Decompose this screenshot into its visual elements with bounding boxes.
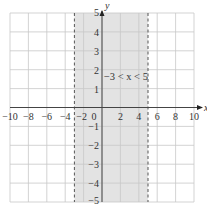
x-axis-arrow-icon [197,105,203,110]
y-tick-label: 3 [94,46,99,57]
x-tick-label: −4 [60,111,71,122]
inequality-annotation: −3 < x < 5 [104,71,148,82]
coordinate-plane: xy−10−8−6−4−20246810−5−4−3−2−112345−3 < … [0,0,207,207]
x-tick-label: 6 [155,111,160,122]
x-tick-label: −2 [76,111,87,122]
x-tick-label: 4 [136,111,141,122]
y-tick-label: −1 [88,121,99,132]
y-tick-label: −2 [88,140,99,151]
y-tick-label: 4 [94,27,99,38]
x-tick-label: 0 [92,111,97,122]
x-tick-label: 2 [118,111,123,122]
x-tick-label: −10 [2,111,18,122]
y-tick-label: 2 [94,65,99,76]
x-tick-label: −8 [23,111,34,122]
y-axis-label: y [104,0,110,11]
x-tick-label: 8 [173,111,178,122]
y-tick-label: −4 [88,178,99,189]
y-tick-label: −5 [88,195,99,206]
y-tick-label: −3 [88,159,99,170]
y-tick-label: 5 [94,7,99,18]
x-tick-label: −6 [41,111,52,122]
x-axis-label: x [203,102,207,113]
x-tick-label: 10 [189,111,199,122]
y-tick-label: 1 [94,84,99,95]
